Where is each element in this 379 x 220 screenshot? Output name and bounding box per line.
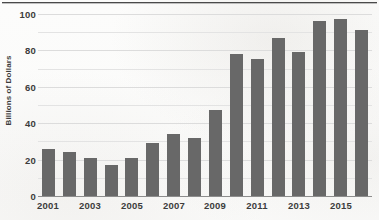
y-axis-tick-labels: 100806040200 — [10, 14, 36, 197]
bar[interactable] — [313, 21, 326, 196]
chart-page: Billions of Dollars 100806040200 2001200… — [0, 0, 379, 220]
y-tick-label: 100 — [10, 10, 36, 19]
x-tick-label: 2015 — [324, 200, 358, 211]
bar[interactable] — [42, 149, 55, 196]
bar[interactable] — [334, 19, 347, 196]
x-tick-label: 2003 — [73, 200, 107, 211]
x-tick-label: 2005 — [115, 200, 149, 211]
top-horizontal-rule-shadow — [2, 3, 377, 4]
plot-area — [38, 14, 372, 197]
bar[interactable] — [167, 134, 180, 196]
x-tick-label: 2013 — [282, 200, 316, 211]
x-tick-label: 2009 — [198, 200, 232, 211]
bar[interactable] — [105, 165, 118, 196]
bar[interactable] — [251, 59, 264, 196]
bar[interactable] — [84, 158, 97, 196]
y-tick-label: 20 — [10, 156, 36, 165]
x-axis-line — [38, 196, 372, 197]
bar[interactable] — [209, 110, 222, 196]
bar[interactable] — [230, 54, 243, 196]
x-tick-label: 2001 — [31, 200, 65, 211]
y-tick-label: 40 — [10, 119, 36, 128]
bar[interactable] — [355, 30, 368, 196]
bar-series — [38, 14, 372, 196]
bar[interactable] — [292, 52, 305, 196]
bar[interactable] — [125, 158, 138, 196]
x-axis-tick-labels: 20012003200520072009201120132015 — [38, 200, 372, 216]
bar[interactable] — [63, 152, 76, 196]
bar[interactable] — [146, 143, 159, 196]
x-tick-label: 2007 — [157, 200, 191, 211]
bar[interactable] — [188, 138, 201, 196]
y-tick-label: 80 — [10, 46, 36, 55]
x-tick-label: 2011 — [240, 200, 274, 211]
y-tick-label: 60 — [10, 83, 36, 92]
bar[interactable] — [272, 38, 285, 196]
